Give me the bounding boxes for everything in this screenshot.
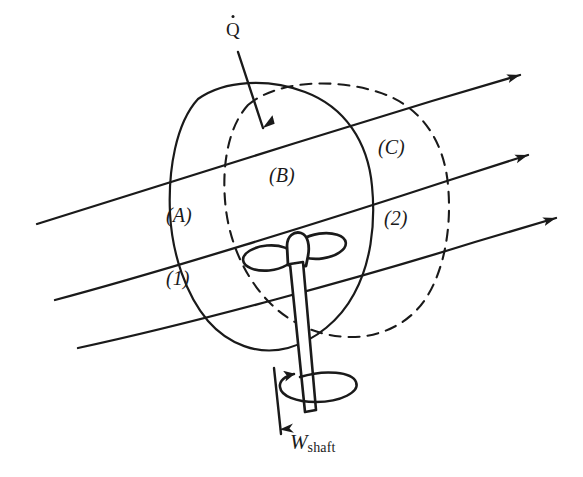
solid-control-surface	[170, 83, 373, 351]
diagram-canvas	[0, 0, 583, 477]
heat-arrow	[238, 52, 263, 128]
region-b-label: (B)	[269, 165, 295, 185]
heat-transfer-label: Q	[226, 20, 240, 39]
propeller-assembly	[242, 230, 357, 412]
station-2-label: (2)	[384, 208, 407, 228]
dashed-control-surface	[224, 83, 449, 337]
region-c-label: (C)	[378, 137, 405, 157]
shaft-work-symbol: W	[290, 430, 308, 454]
propeller-hub	[287, 233, 309, 266]
shaft-work-subscript: shaft	[308, 440, 336, 455]
q-dot-accent	[231, 15, 234, 18]
streamline-upper	[37, 75, 520, 224]
figure-root: Q (A) (B) (C) (1) (2) Wshaft	[0, 0, 583, 477]
shaft-work-arrow	[274, 368, 281, 434]
shaft-work-label: Wshaft	[290, 432, 336, 453]
region-a-label: (A)	[166, 205, 192, 225]
station-1-label: (1)	[166, 268, 189, 288]
rotation-ellipse	[280, 372, 357, 402]
